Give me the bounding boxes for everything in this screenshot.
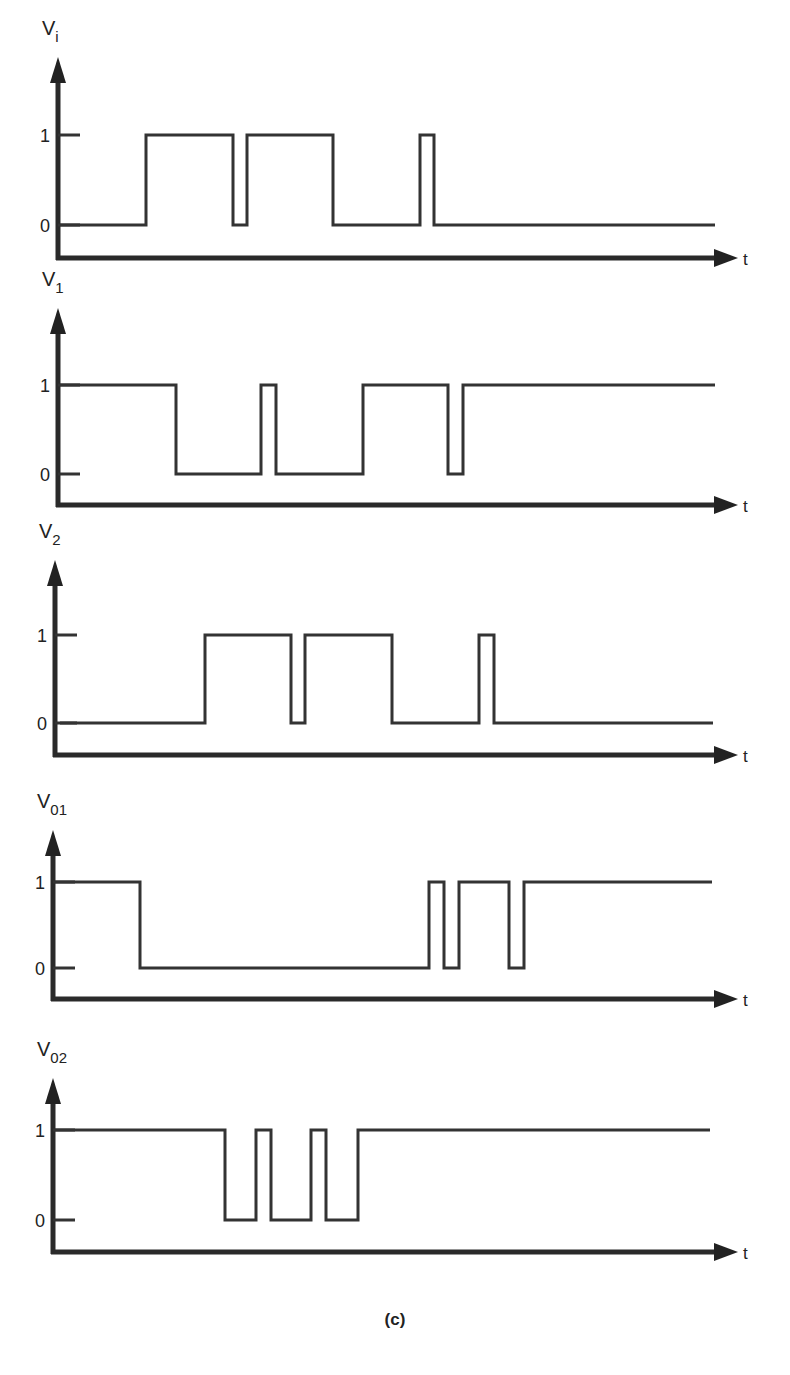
x-axis-label: t bbox=[743, 747, 748, 766]
low-level-label: 0 bbox=[35, 1211, 45, 1231]
timing-diagram: Vit10V1t10V2t10V01t10V02t10 bbox=[0, 0, 790, 1375]
waveform-panel-v1: V1t10 bbox=[40, 268, 748, 516]
x-axis-label: t bbox=[743, 1244, 748, 1263]
waveform-panel-v02: V02t10 bbox=[35, 1038, 748, 1263]
x-axis-arrow-icon bbox=[714, 496, 738, 514]
figure-caption: (c) bbox=[0, 1310, 790, 1330]
signal-label: Vi bbox=[42, 17, 59, 45]
high-level-label: 1 bbox=[37, 626, 47, 646]
waveform-v1 bbox=[60, 385, 715, 474]
y-axis-arrow-icon bbox=[47, 560, 63, 586]
y-axis-arrow-icon bbox=[45, 1078, 61, 1104]
waveform-panel-vi: Vit10 bbox=[40, 17, 748, 269]
low-level-label: 0 bbox=[35, 959, 45, 979]
waveform-v01 bbox=[55, 882, 712, 968]
waveform-panel-v01: V01t10 bbox=[35, 790, 748, 1010]
x-axis-arrow-icon bbox=[714, 1243, 738, 1261]
signal-label: V02 bbox=[37, 1038, 67, 1066]
signal-label: V2 bbox=[39, 520, 61, 548]
high-level-label: 1 bbox=[35, 1121, 45, 1141]
signal-label: V01 bbox=[37, 790, 67, 818]
y-axis-arrow-icon bbox=[50, 57, 66, 83]
low-level-label: 0 bbox=[40, 216, 50, 236]
x-axis-label: t bbox=[743, 250, 748, 269]
high-level-label: 1 bbox=[40, 376, 50, 396]
high-level-label: 1 bbox=[35, 873, 45, 893]
x-axis-arrow-icon bbox=[714, 990, 738, 1008]
waveform-vi bbox=[60, 135, 715, 225]
low-level-label: 0 bbox=[40, 465, 50, 485]
waveform-v02 bbox=[55, 1130, 710, 1220]
y-axis-arrow-icon bbox=[45, 830, 61, 856]
x-axis-label: t bbox=[743, 497, 748, 516]
y-axis-arrow-icon bbox=[50, 308, 66, 334]
waveform-panel-v2: V2t10 bbox=[37, 520, 748, 766]
high-level-label: 1 bbox=[40, 126, 50, 146]
signal-label: V1 bbox=[42, 268, 64, 296]
x-axis-arrow-icon bbox=[714, 249, 738, 267]
x-axis-arrow-icon bbox=[714, 746, 738, 764]
low-level-label: 0 bbox=[37, 714, 47, 734]
x-axis-label: t bbox=[743, 991, 748, 1010]
waveform-v2 bbox=[60, 635, 713, 723]
